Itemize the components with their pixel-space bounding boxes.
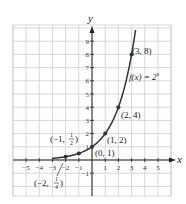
y-tick-label: 9 bbox=[86, 38, 90, 46]
y-tick-label: 2 bbox=[86, 130, 90, 138]
data-point bbox=[64, 155, 68, 159]
y-axis-arrow-icon bbox=[90, 26, 95, 33]
x-tick-label: −2 bbox=[62, 164, 70, 172]
point-label-neg1-half: (−1, 1 2 ) bbox=[50, 132, 78, 146]
data-point bbox=[116, 105, 120, 109]
x-tick-label: 2 bbox=[117, 164, 121, 172]
x-tick-label: 1 bbox=[103, 164, 107, 172]
y-tick-label: 6 bbox=[86, 77, 90, 85]
x-tick-label: −3 bbox=[49, 164, 57, 172]
x-tick-label: −4 bbox=[35, 164, 43, 172]
ticks: −5−4−3−2−112345−1123456789 bbox=[22, 38, 160, 178]
x-tick-label: 4 bbox=[143, 164, 147, 172]
data-point bbox=[90, 145, 94, 149]
svg-text:4: 4 bbox=[55, 184, 58, 190]
point-label-2-4: (2, 4) bbox=[121, 110, 141, 120]
x-axis-arrow-icon bbox=[169, 158, 176, 163]
y-tick-label: 5 bbox=[86, 91, 90, 99]
x-tick-label: 5 bbox=[156, 164, 160, 172]
x-tick-label: 3 bbox=[130, 164, 134, 172]
svg-text:): ) bbox=[60, 178, 63, 188]
x-axis-label: x bbox=[176, 153, 182, 165]
point-label-3-8: (3, 8) bbox=[132, 46, 152, 56]
point-label-neg2-quarter: (−2, 1 4 ) bbox=[34, 176, 63, 190]
y-tick-label: 4 bbox=[86, 104, 90, 112]
point-label-0-1: (0, 1) bbox=[95, 148, 115, 158]
y-axis-label: y bbox=[87, 12, 93, 24]
y-tick-label: −1 bbox=[82, 170, 90, 178]
point-label-1-2: (1, 2) bbox=[107, 135, 127, 145]
data-point bbox=[77, 151, 81, 155]
plot-area: −5−4−3−2−112345−1123456789 y x (3, 8) f(… bbox=[0, 0, 186, 204]
x-tick-label: −5 bbox=[22, 164, 30, 172]
exponential-graph: −5−4−3−2−112345−1123456789 y x (3, 8) f(… bbox=[0, 0, 186, 204]
svg-text:): ) bbox=[75, 134, 78, 144]
function-label: f(x) = 2x bbox=[129, 71, 160, 82]
svg-text:(−2,: (−2, bbox=[34, 178, 49, 188]
svg-text:1: 1 bbox=[70, 132, 73, 138]
y-tick-label: 7 bbox=[86, 64, 90, 72]
y-tick-label: 3 bbox=[86, 117, 90, 125]
y-tick-label: 8 bbox=[86, 51, 90, 59]
svg-text:(−1,: (−1, bbox=[50, 134, 65, 144]
svg-text:2: 2 bbox=[70, 140, 73, 146]
svg-text:1: 1 bbox=[55, 176, 58, 182]
